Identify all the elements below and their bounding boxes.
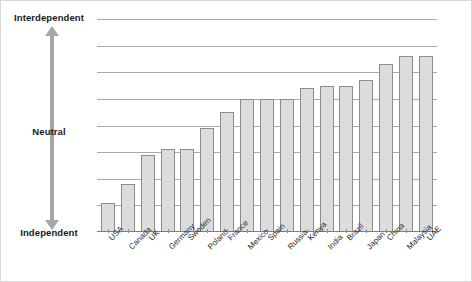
- axis-anchor-label-top: Interdependent: [1, 12, 97, 23]
- bar-slot: [178, 19, 198, 232]
- x-axis-tick: [247, 229, 248, 233]
- bar[interactable]: [220, 112, 234, 232]
- x-label-slot: India: [317, 233, 337, 282]
- x-label-slot: UAE: [416, 233, 436, 282]
- x-axis-tick: [148, 229, 149, 233]
- bar[interactable]: [399, 56, 413, 232]
- axis-anchor-label-bottom: Independent: [1, 227, 97, 238]
- bar[interactable]: [419, 56, 433, 232]
- bar[interactable]: [359, 80, 373, 232]
- x-label-slot: China: [376, 233, 396, 282]
- bar[interactable]: [339, 86, 353, 232]
- x-label-slot: UK: [138, 233, 158, 282]
- x-label-slot: Malaysia: [396, 233, 416, 282]
- bar-slot: [396, 19, 416, 232]
- bar[interactable]: [379, 64, 393, 232]
- x-label-slot: Kenya: [297, 233, 317, 282]
- bar[interactable]: [141, 155, 155, 232]
- bar[interactable]: [161, 149, 175, 232]
- bar[interactable]: [280, 99, 294, 232]
- bar-slot: [158, 19, 178, 232]
- bar-slot: [277, 19, 297, 232]
- x-label-slot: USA: [98, 233, 118, 282]
- x-axis-tick: [168, 229, 169, 233]
- bar-slot: [376, 19, 396, 232]
- x-axis-tick: [366, 229, 367, 233]
- x-axis-tick: [307, 229, 308, 233]
- x-axis-tick: [207, 229, 208, 233]
- bar-slot: [237, 19, 257, 232]
- bar-slot: [416, 19, 436, 232]
- x-label-slot: Spain: [257, 233, 277, 282]
- x-label-slot: Russia: [277, 233, 297, 282]
- bar-slot: [138, 19, 158, 232]
- x-label-slot: Brazil: [337, 233, 357, 282]
- bar[interactable]: [101, 203, 115, 232]
- bar[interactable]: [180, 149, 194, 232]
- x-label-slot: Japan: [356, 233, 376, 282]
- bar-slot: [257, 19, 277, 232]
- x-label-slot: Germany: [158, 233, 178, 282]
- bar-slot: [197, 19, 217, 232]
- x-axis-tick: [128, 229, 129, 233]
- bar-slot: [337, 19, 357, 232]
- x-label-slot: Poland: [197, 233, 217, 282]
- bar[interactable]: [240, 99, 254, 232]
- bar-slot: [356, 19, 376, 232]
- bar-slot: [118, 19, 138, 232]
- axis-anchor-label-middle: Neutral: [1, 126, 97, 137]
- x-axis-tick: [287, 229, 288, 233]
- bar-slot: [98, 19, 118, 232]
- bar-slot: [317, 19, 337, 232]
- x-label-slot: Mexico: [237, 233, 257, 282]
- vertical-axis-annotation: Interdependent Neutral Independent: [1, 1, 97, 246]
- x-axis-tick: [406, 229, 407, 233]
- bar[interactable]: [260, 99, 274, 232]
- plot-area: [97, 19, 437, 232]
- x-label-slot: France: [217, 233, 237, 282]
- bar-slot: [297, 19, 317, 232]
- x-axis-tick-labels: USACanadaUKGermanySwedenPolandFranceMexi…: [97, 233, 437, 282]
- chart-figure: Interdependent Neutral Independent USACa…: [0, 0, 472, 282]
- bar-slot: [217, 19, 237, 232]
- bar[interactable]: [300, 88, 314, 232]
- x-label-slot: Canada: [118, 233, 138, 282]
- bar[interactable]: [121, 184, 135, 232]
- x-axis-tick: [327, 229, 328, 233]
- bar-series: [97, 19, 437, 232]
- x-label-slot: Sweden: [178, 233, 198, 282]
- bar[interactable]: [320, 86, 334, 232]
